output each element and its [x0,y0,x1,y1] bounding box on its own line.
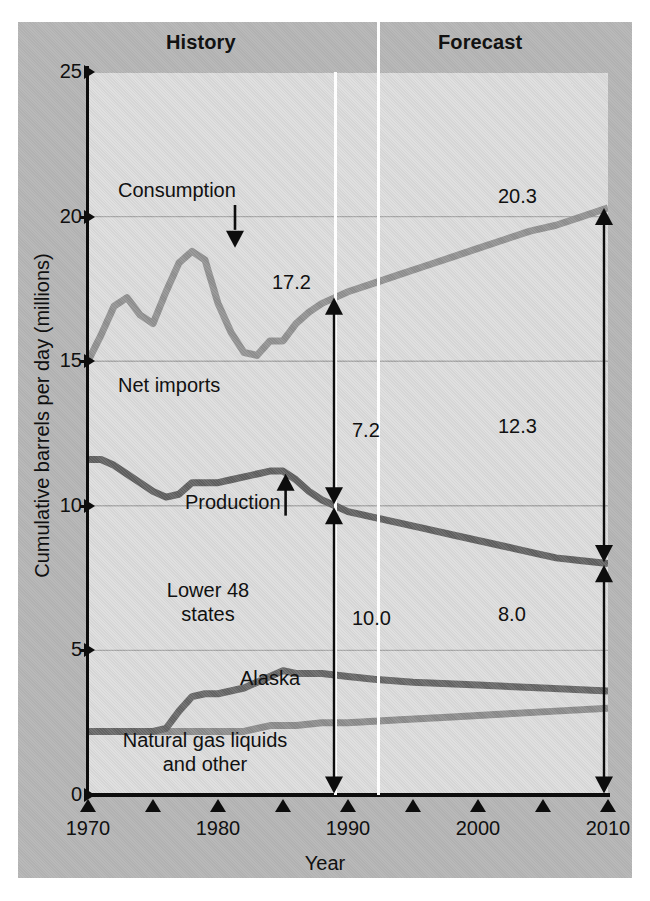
value-label-1989-production: 10.0 [352,608,391,629]
value-label-1989-consumption: 17.2 [272,272,311,293]
x-tick-arrow-icon [405,799,421,812]
chart-page: History Forecast 0510152025 197019801990… [0,0,650,901]
x-tick-label-1970: 1970 [66,817,111,840]
production-label: Production [185,492,281,513]
forecast-band-label: Forecast [438,31,522,54]
x-tick-arrow-icon [210,799,226,812]
alaska-label: Alaska [240,668,300,689]
y-tick-label: 15 [60,349,82,372]
y-tick-mark [80,360,88,363]
x-tick-label-1990: 1990 [326,817,371,840]
x-tick-label-2010: 2010 [586,817,631,840]
y-tick-label: 20 [60,205,82,228]
x-tick-arrow-icon [340,799,356,812]
x-tick-arrow-icon [275,799,291,812]
y-axis-line [86,66,89,797]
value-label-2010-net-imports: 12.3 [498,416,537,437]
y-axis-title: Cumulative barrels per day (millions) [31,106,54,726]
x-tick-arrow-icon [600,799,616,812]
ngl-label-line2: and other [163,754,248,775]
history-band-label: History [166,31,236,54]
net-imports-label: Net imports [118,375,220,396]
history-forecast-band-divider [377,22,380,795]
tick-arrow-icon [84,65,95,79]
x-tick-arrow-icon [535,799,551,812]
value-label-2010-production: 8.0 [498,604,526,625]
x-axis-line [88,793,610,797]
y-tick-label: 10 [60,494,82,517]
lower-48-label-line1: Lower 48 [167,580,249,601]
y-tick-label: 25 [60,60,82,83]
x-tick-arrow-icon [470,799,486,812]
value-label-2010-consumption: 20.3 [498,186,537,207]
y-tick-0: 0 [24,783,82,807]
lower-48-label-line2: states [181,604,234,625]
ngl-label-line1: Natural gas liquids [123,730,288,751]
history-forecast-band: History Forecast [18,22,632,72]
y-tick-mark [80,216,88,219]
x-axis-title: Year [0,852,650,875]
y-tick-25: 25 [24,60,82,84]
x-tick-label-2000: 2000 [456,817,501,840]
y-tick-mark [80,505,88,508]
x-tick-label-1980: 1980 [196,817,241,840]
consumption-label: Consumption [118,180,236,201]
history-forecast-data-divider [334,72,337,795]
value-label-1989-net-imports: 7.2 [352,420,380,441]
x-tick-arrow-icon [145,799,161,812]
x-tick-arrow-icon [80,799,96,812]
y-tick-mark [80,649,88,652]
